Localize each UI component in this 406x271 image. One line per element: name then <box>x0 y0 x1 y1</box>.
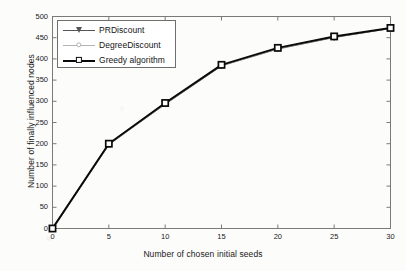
data-point <box>275 45 281 51</box>
figure-canvas: 050100150200250300350400450500 051015202… <box>0 0 406 271</box>
x-tick-label: 10 <box>151 232 179 241</box>
y-axis-label: Number of finally influenced nodes <box>26 54 36 188</box>
square-icon <box>76 57 82 63</box>
x-tick-label: 15 <box>208 232 236 241</box>
data-point <box>387 25 393 31</box>
legend-item-greedy-algorithm[interactable]: Greedy algorithm <box>58 52 177 68</box>
data-point <box>106 141 112 147</box>
data-point <box>331 33 337 39</box>
legend-label-degreediscount: DegreeDiscount <box>99 40 161 50</box>
legend-box: PRDiscount DegreeDiscount Greedy algorit… <box>57 20 176 68</box>
x-tick-label: 0 <box>39 232 67 241</box>
legend-label-greedy-algorithm: Greedy algorithm <box>99 55 165 65</box>
y-axis-label-wrapper: Number of finally influenced nodes <box>20 6 38 236</box>
legend-sample-prdiscount <box>62 23 96 37</box>
legend-item-degreediscount[interactable]: DegreeDiscount <box>58 37 177 53</box>
data-point <box>162 100 168 106</box>
x-tick-label: 5 <box>95 232 123 241</box>
circle-icon <box>76 42 81 47</box>
legend-sample-degreediscount <box>62 38 96 52</box>
x-tick-label: 20 <box>264 232 292 241</box>
legend-label-prdiscount: PRDiscount <box>99 25 144 35</box>
x-tick-label: 25 <box>320 232 348 241</box>
data-point <box>218 62 224 68</box>
x-axis-label: Number of chosen initial seeds <box>0 249 406 259</box>
x-tick-label: 30 <box>377 232 405 241</box>
legend-sample-greedy-algorithm <box>62 53 96 67</box>
legend-item-prdiscount[interactable]: PRDiscount <box>58 22 177 38</box>
triangle-down-icon <box>76 27 82 33</box>
